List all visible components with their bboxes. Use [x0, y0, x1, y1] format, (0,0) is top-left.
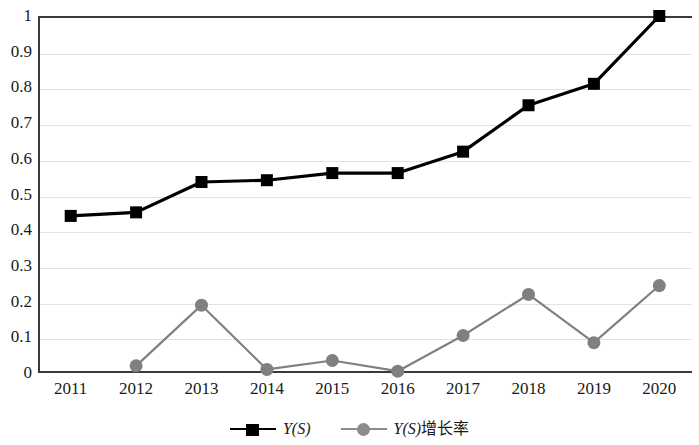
- legend-label-y-s: Y(S): [283, 420, 311, 438]
- gridline: [40, 339, 692, 340]
- plot-area: [38, 16, 692, 373]
- y-axis-tick-label: 1: [0, 7, 32, 24]
- y-axis-tick-label: 0.7: [0, 114, 32, 131]
- y-axis-tick-label: 0.3: [0, 257, 32, 274]
- x-axis-tick-label: 2016: [363, 379, 433, 399]
- y-axis-tick-label: 0.8: [0, 78, 32, 95]
- x-axis-tick-label: 2019: [559, 379, 629, 399]
- gridline: [40, 89, 692, 90]
- x-axis-tick-label: 2020: [624, 379, 694, 399]
- y-axis-tick-label: 0.2: [0, 293, 32, 310]
- gridline: [40, 197, 692, 198]
- gridline: [40, 268, 692, 269]
- x-axis-tick-label: 2015: [297, 379, 367, 399]
- x-axis-tick-label: 2012: [101, 379, 171, 399]
- gridline: [40, 54, 692, 55]
- y-axis-tick-label: 0.1: [0, 328, 32, 345]
- gridline: [40, 232, 692, 233]
- gridline: [40, 125, 692, 126]
- gridline: [40, 304, 692, 305]
- y-axis-tick-label: 0.5: [0, 186, 32, 203]
- legend-key-circle-marker: [341, 422, 387, 436]
- y-axis-tick-labels: 00.10.20.30.40.50.60.70.80.91: [0, 16, 34, 373]
- legend-label-y-s-growth-rate: Y(S)增长率: [394, 420, 470, 438]
- y-axis-tick-label: 0.4: [0, 221, 32, 238]
- x-axis-tick-label: 2018: [494, 379, 564, 399]
- legend-item-y-s[interactable]: Y(S): [230, 420, 311, 438]
- x-axis-tick-labels: 2011201220132014201520162017201820192020: [0, 379, 699, 405]
- y-axis-tick-label: 0.9: [0, 43, 32, 60]
- line-chart: 00.10.20.30.40.50.60.70.80.91 2011201220…: [0, 0, 699, 445]
- x-axis-tick-label: 2014: [232, 379, 302, 399]
- gridlines: [40, 18, 692, 371]
- legend-item-y-s-growth-rate[interactable]: Y(S)增长率: [341, 420, 470, 438]
- x-axis-tick-label: 2013: [167, 379, 237, 399]
- x-axis-tick-label: 2011: [36, 379, 106, 399]
- x-axis-tick-label: 2017: [428, 379, 498, 399]
- gridline: [40, 161, 692, 162]
- y-axis-tick-label: 0.6: [0, 150, 32, 167]
- chart-legend: Y(S) Y(S)增长率: [0, 412, 699, 445]
- legend-key-square-marker: [230, 422, 276, 436]
